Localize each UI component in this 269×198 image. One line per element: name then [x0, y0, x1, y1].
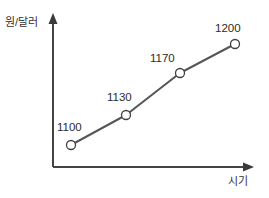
data-point-label: 1130 — [107, 91, 132, 103]
y-axis-arrowhead — [49, 13, 58, 24]
data-point-marker — [122, 111, 131, 120]
data-point-marker — [67, 141, 76, 150]
x-axis-label: 시기 — [228, 172, 248, 188]
data-point-marker — [176, 69, 185, 78]
data-point-label: 1200 — [215, 22, 241, 34]
data-point-marker — [231, 40, 240, 49]
axes-group — [49, 13, 255, 172]
exchange-rate-line-chart: 원/달러 시기 1100 1130 1170 1200 — [0, 0, 269, 198]
x-axis-arrowhead — [243, 163, 254, 172]
data-point-label: 1170 — [150, 52, 175, 64]
data-point-label: 1100 — [57, 121, 82, 133]
y-axis-label: 원/달러 — [5, 13, 38, 29]
